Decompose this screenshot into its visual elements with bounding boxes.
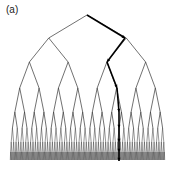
- binary-tree-diagram: [0, 0, 176, 172]
- figure-panel: (a): [0, 0, 176, 172]
